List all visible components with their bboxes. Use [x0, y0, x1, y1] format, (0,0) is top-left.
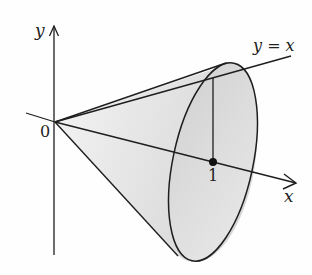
point-x-equals-1: [209, 158, 217, 166]
cone-of-revolution-diagram: y 0 y = x 1 x: [0, 0, 312, 275]
y-axis-label: y: [35, 22, 45, 39]
point-label: 1: [208, 168, 218, 184]
line-equation-label: y = x: [253, 38, 295, 54]
x-axis-negative: [26, 113, 55, 122]
x-axis-label: x: [284, 188, 294, 205]
origin-label: 0: [40, 124, 50, 140]
